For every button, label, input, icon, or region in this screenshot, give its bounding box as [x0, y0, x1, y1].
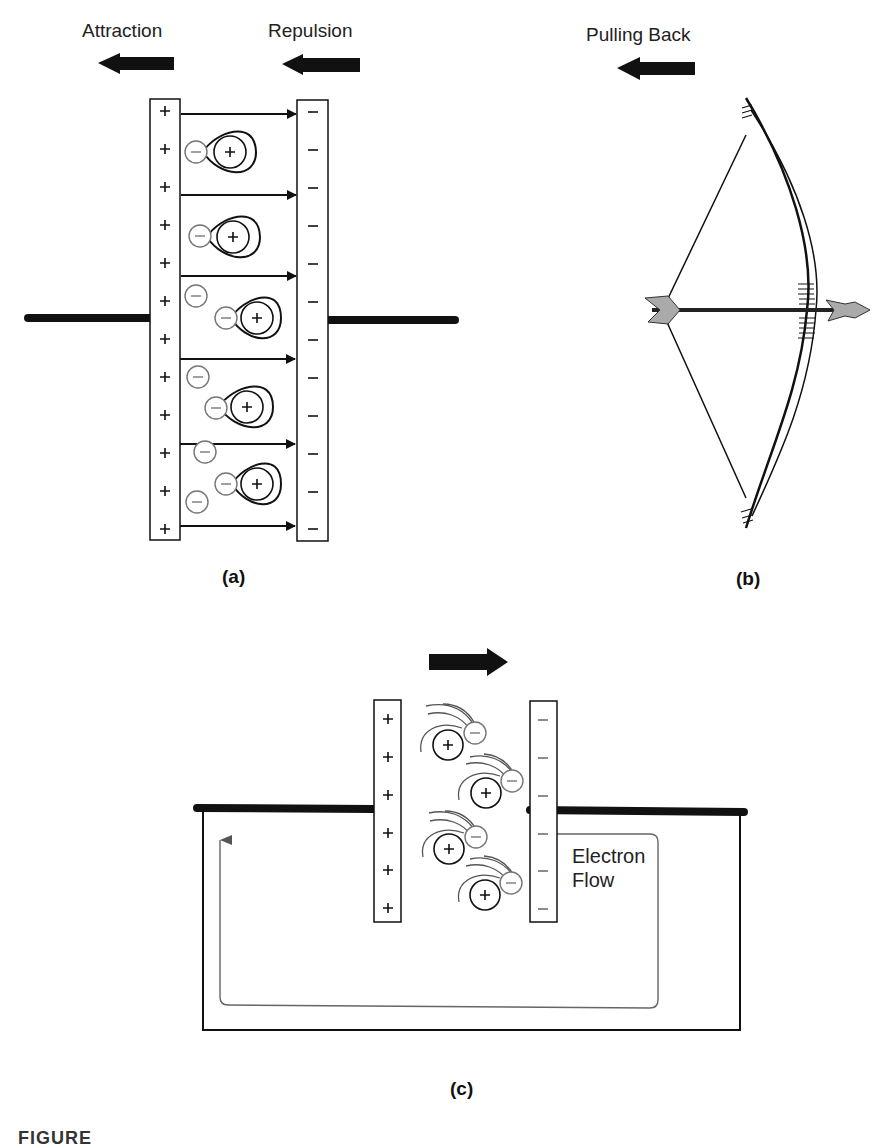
panel-b	[617, 57, 870, 528]
distorted-atom	[189, 216, 260, 257]
repulsion-arrow-icon	[282, 54, 360, 75]
distorted-atom	[186, 441, 281, 513]
panel-a	[28, 53, 455, 541]
positive-plate	[150, 99, 180, 540]
pulling-back-arrow-icon	[617, 57, 695, 80]
distorted-atom	[187, 366, 273, 427]
distorted-atom	[185, 285, 281, 338]
distorted-atom	[185, 131, 256, 172]
atom-release	[421, 704, 486, 760]
atom-release	[459, 856, 522, 910]
atom-release	[459, 754, 523, 808]
panel-c	[196, 648, 744, 1030]
attraction-arrow-icon	[98, 53, 174, 74]
arrow-fletching	[645, 296, 680, 324]
field-arrows	[180, 114, 296, 526]
negative-plate-c	[530, 701, 557, 922]
atom-release	[423, 811, 487, 864]
bow-limb	[746, 98, 808, 528]
direction-arrow-icon	[429, 648, 508, 676]
positive-plate-c	[374, 700, 401, 922]
negative-plate	[297, 100, 328, 541]
